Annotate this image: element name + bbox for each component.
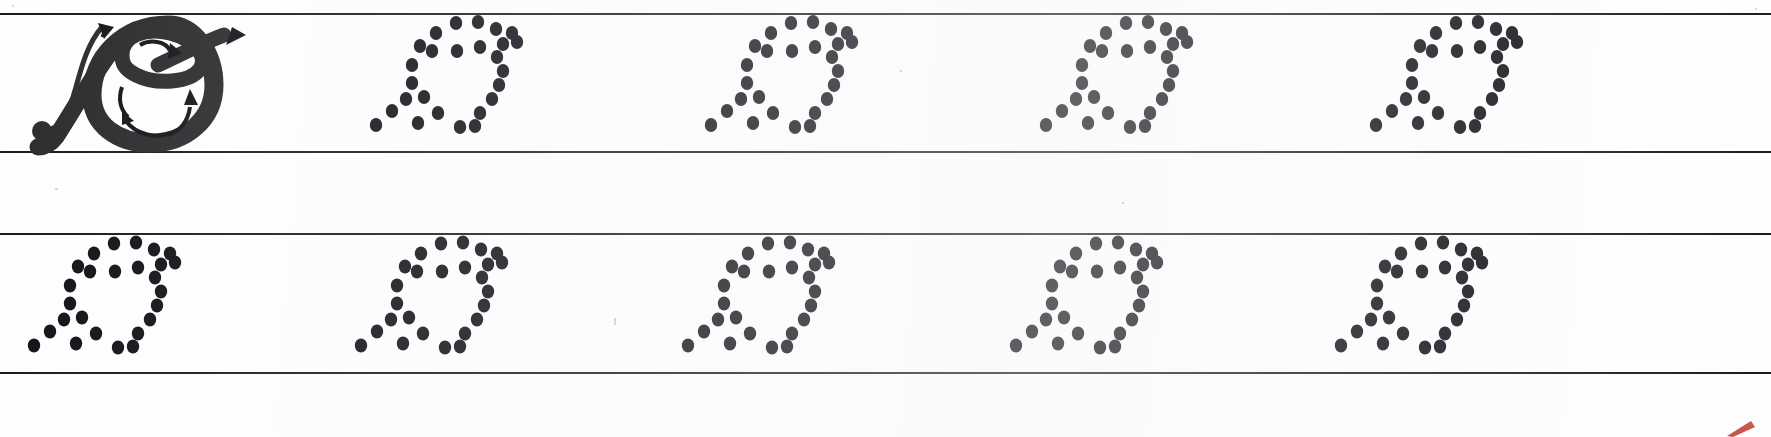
tracing-dot: [511, 35, 523, 49]
tracing-dot: [454, 120, 466, 134]
tracing-dot: [1437, 236, 1449, 250]
tracing-dot: [744, 327, 756, 341]
tracing-dot: [1052, 337, 1064, 351]
tracing-dot: [1160, 22, 1172, 36]
tracing-dot: [1124, 120, 1136, 134]
tracing-dot: [802, 243, 814, 257]
tracing-dot: [718, 297, 730, 311]
dotted-letter-svg: [1360, 13, 1550, 153]
tracing-dot: [1462, 258, 1474, 272]
dotted-letter-svg: [18, 233, 208, 374]
tracing-dot: [1469, 119, 1481, 133]
tracing-dot: [809, 258, 821, 272]
tracing-dot: [84, 265, 96, 279]
tracing-dot: [459, 327, 471, 341]
tracing-dot: [1370, 118, 1382, 132]
tracing-dot: [698, 325, 710, 339]
tracing-dot: [825, 22, 837, 36]
tracing-dot: [712, 313, 724, 327]
tracing-dot: [826, 50, 838, 64]
tracing-dot: [765, 26, 777, 40]
tracing-dot: [807, 15, 819, 29]
tracing-dot: [486, 92, 498, 106]
tracing-dot: [417, 327, 429, 341]
tracing-dot: [762, 237, 774, 251]
tracing-dot: [718, 279, 730, 293]
tracing-dot: [1490, 22, 1502, 36]
dotted-letter-cell: [1325, 233, 1515, 374]
tracing-dot: [1351, 325, 1363, 339]
tracing-dot: [721, 104, 733, 118]
tracing-dot: [418, 90, 430, 104]
tracing-dot: [430, 26, 442, 40]
tracing-dot: [432, 106, 444, 120]
tracing-dot: [1096, 44, 1108, 58]
tracing-dot: [451, 44, 463, 58]
tracing-dot: [742, 247, 754, 261]
tracing-dot: [482, 258, 494, 272]
tracing-dot: [809, 106, 821, 120]
tracing-dot: [1474, 106, 1486, 120]
tracing-dot: [809, 40, 821, 54]
tracing-dot: [1497, 37, 1509, 51]
tracing-dot: [1439, 327, 1451, 341]
tracing-dot: [805, 299, 817, 313]
tracing-dot: [1458, 299, 1470, 313]
tracing-dot: [1072, 327, 1084, 341]
tracing-dot: [1493, 78, 1505, 92]
tracing-dot: [1076, 58, 1088, 72]
tracing-dot: [1371, 297, 1383, 311]
tracing-dot: [1144, 106, 1156, 120]
tracing-dot: [1144, 40, 1156, 54]
tracing-dot: [478, 299, 490, 313]
tracing-dot: [786, 261, 798, 275]
tracing-dot: [474, 106, 486, 120]
tracing-dot: [1109, 340, 1121, 354]
tracing-dot: [1091, 265, 1103, 279]
tracing-dot: [1046, 297, 1058, 311]
tracing-dot: [1454, 120, 1466, 134]
tracing-dot: [1497, 64, 1509, 78]
tracing-dot: [1426, 44, 1438, 58]
tracing-dot: [399, 260, 411, 274]
scan-speck: [900, 70, 902, 72]
tracing-dot: [1139, 119, 1151, 133]
tracing-dot: [108, 237, 120, 251]
tracing-dot: [1511, 35, 1523, 49]
tracing-dot: [457, 236, 469, 250]
tracing-dot: [406, 58, 418, 72]
tracing-dot: [1491, 50, 1503, 64]
bowl-down-arrow: [120, 87, 134, 125]
tracing-dot: [1054, 260, 1066, 274]
tracing-dot: [436, 265, 448, 279]
tracing-dot: [403, 311, 415, 325]
tracing-dot: [1100, 26, 1112, 40]
tracing-dot: [406, 76, 418, 90]
tracing-dot: [1450, 16, 1462, 30]
model-letter-cell: [18, 13, 318, 153]
tracing-dot: [1131, 271, 1143, 285]
tracing-dot: [804, 119, 816, 133]
tracing-dot: [781, 340, 793, 354]
tracing-dot: [112, 341, 124, 355]
tracing-dot: [1456, 271, 1468, 285]
tracing-dot: [1335, 339, 1347, 353]
tracing-dot: [1439, 261, 1451, 275]
tracing-dot: [1476, 256, 1488, 270]
tracing-dot: [439, 341, 451, 355]
tracing-dot: [497, 64, 509, 78]
tracing-dot: [1386, 104, 1398, 118]
scan-speck: [1755, 8, 1757, 10]
tracing-dot: [1066, 265, 1078, 279]
tracing-dot: [798, 313, 810, 327]
tracing-dot: [1070, 247, 1082, 261]
tracing-dot: [1156, 92, 1168, 106]
tracing-dot: [475, 243, 487, 257]
dotted-letter-svg: [672, 233, 862, 374]
tracing-dot: [76, 311, 88, 325]
tracing-dot: [705, 118, 717, 132]
tracing-dot: [1102, 106, 1114, 120]
tracing-dot: [1397, 327, 1409, 341]
tracing-dot: [1415, 237, 1427, 251]
tracing-dot: [741, 58, 753, 72]
